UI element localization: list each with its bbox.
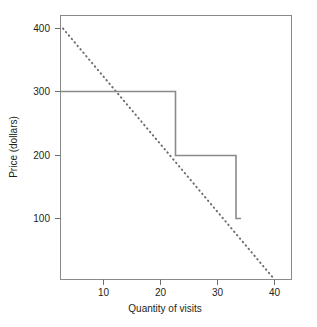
y-tick-label-300: 300 xyxy=(33,86,50,97)
y-tick-label-100: 100 xyxy=(33,213,50,224)
x-tick-label-30: 30 xyxy=(212,287,224,298)
x-tick-label-10: 10 xyxy=(98,287,110,298)
x-axis-ticks xyxy=(104,280,275,286)
x-tick-label-40: 40 xyxy=(269,287,281,298)
chart-figure: 100 200 300 400 10 20 30 40 Quantity of … xyxy=(0,0,317,327)
y-tick-label-400: 400 xyxy=(33,23,50,34)
demand-curve-line xyxy=(63,29,275,280)
y-axis-ticks xyxy=(55,29,61,219)
x-axis-title: Quantity of visits xyxy=(128,303,201,314)
y-axis-title: Price (dollars) xyxy=(8,116,19,178)
y-tick-label-200: 200 xyxy=(33,150,50,161)
price-step-line xyxy=(61,92,241,219)
x-tick-label-20: 20 xyxy=(155,287,167,298)
demand-step-chart: 100 200 300 400 10 20 30 40 Quantity of … xyxy=(0,0,317,327)
